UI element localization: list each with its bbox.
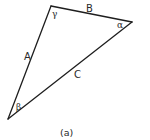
triangle-figure: B A C γ α β (a) xyxy=(0,0,150,140)
triangle-diagram: B A C γ α β (a) xyxy=(0,0,150,140)
angle-beta-label: β xyxy=(16,102,21,112)
angle-alpha-label: α xyxy=(117,20,123,30)
figure-caption: (a) xyxy=(60,127,73,138)
side-c-label: C xyxy=(74,69,81,80)
angle-gamma-label: γ xyxy=(52,9,57,19)
side-a-label: A xyxy=(24,51,31,62)
side-b-label: B xyxy=(86,3,93,14)
